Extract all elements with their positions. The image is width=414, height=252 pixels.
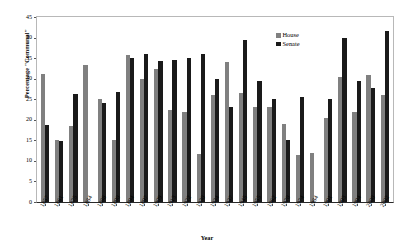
y-tick-label: 45 xyxy=(26,13,32,21)
bar-group xyxy=(80,17,94,202)
bar-group xyxy=(378,17,392,202)
bar-group xyxy=(66,17,80,202)
y-tick-label: 15 xyxy=(26,136,32,144)
legend-item-house: House xyxy=(276,31,300,40)
bar-senate-1934 xyxy=(215,79,219,202)
x-axis-ticks: 1857186118751884188818901894189719091913… xyxy=(37,204,393,234)
bar-senate-1955 xyxy=(257,81,261,202)
y-tick-label: 40 xyxy=(26,33,32,41)
x-tick-1897: 1897 xyxy=(137,204,151,234)
x-tick-1922: 1922 xyxy=(180,204,194,234)
bar-group xyxy=(321,17,335,202)
bar-group xyxy=(180,17,194,202)
x-tick-1945: 1945 xyxy=(236,204,250,234)
bar-group xyxy=(151,17,165,202)
bar-senate-1890 xyxy=(116,92,120,202)
y-tick-label: 10 xyxy=(26,156,32,164)
bar-senate-1875 xyxy=(73,94,77,202)
x-tick-1934: 1934 xyxy=(208,204,222,234)
x-tick-1984: 1984 xyxy=(307,204,321,234)
legend-label: Senate xyxy=(283,40,300,49)
x-tick-1913: 1913 xyxy=(165,204,179,234)
bar-group xyxy=(165,17,179,202)
bar-group xyxy=(95,17,109,202)
legend-item-senate: Senate xyxy=(276,40,300,49)
bar-group xyxy=(123,17,137,202)
x-tick-1993: 1993 xyxy=(335,204,349,234)
x-axis-title: Year xyxy=(0,234,414,241)
bar-group xyxy=(52,17,66,202)
x-tick-1888: 1888 xyxy=(95,204,109,234)
bar-senate-1897 xyxy=(144,54,148,202)
y-tick-label: 20 xyxy=(26,115,32,123)
x-tick-2002: 2002 xyxy=(378,204,392,234)
x-tick-1962: 1962 xyxy=(265,204,279,234)
y-axis-ticks: 051015202530354045 xyxy=(0,16,36,203)
x-tick-1894: 1894 xyxy=(123,204,137,234)
bar-senate-1970 xyxy=(286,140,290,202)
bar-senate-1994 xyxy=(357,81,361,202)
bar-senate-1888 xyxy=(102,103,106,202)
bar-group xyxy=(38,17,52,202)
bar-senate-1857 xyxy=(45,125,49,202)
x-tick-1937: 1937 xyxy=(222,204,236,234)
x-tick-1890: 1890 xyxy=(109,204,123,234)
legend-swatch-icon xyxy=(276,42,281,47)
y-tick-label: 30 xyxy=(26,74,32,82)
bar-series-container xyxy=(37,17,393,202)
bar-senate-1861 xyxy=(59,141,63,202)
y-tick-label: 35 xyxy=(26,54,32,62)
x-tick-1991: 1991 xyxy=(321,204,335,234)
bar-group xyxy=(137,17,151,202)
bar-chart: Percentage "Communal" 051015202530354045… xyxy=(0,0,414,252)
bar-senate-1922 xyxy=(187,58,191,202)
y-tick-label: 5 xyxy=(29,177,32,185)
x-tick-1955: 1955 xyxy=(250,204,264,234)
bar-senate-1974 xyxy=(300,97,304,202)
bar-group xyxy=(349,17,363,202)
legend-label: House xyxy=(283,31,299,40)
bar-group xyxy=(208,17,222,202)
bar-group xyxy=(364,17,378,202)
legend-swatch-icon xyxy=(276,33,281,38)
x-tick-1884: 1884 xyxy=(80,204,94,234)
x-tick-2000: 2000 xyxy=(364,204,378,234)
y-tick-label: 0 xyxy=(29,198,32,206)
x-tick-1857: 1857 xyxy=(38,204,52,234)
bar-group xyxy=(250,17,264,202)
bar-senate-1930 xyxy=(201,54,205,202)
bar-senate-1962 xyxy=(272,99,276,202)
x-tick-1861: 1861 xyxy=(52,204,66,234)
x-tick-1930: 1930 xyxy=(194,204,208,234)
x-tick-1974: 1974 xyxy=(293,204,307,234)
x-tick-1970: 1970 xyxy=(279,204,293,234)
x-tick-1994: 1994 xyxy=(349,204,363,234)
bar-senate-1993 xyxy=(342,38,346,202)
bar-group xyxy=(236,17,250,202)
bar-senate-1937 xyxy=(229,107,233,202)
bar-group xyxy=(222,17,236,202)
bar-senate-1894 xyxy=(130,58,134,202)
bar-group xyxy=(307,17,321,202)
bar-group xyxy=(109,17,123,202)
bar-house-1884 xyxy=(83,65,87,202)
chart-legend: HouseSenate xyxy=(276,31,300,48)
bar-senate-1909 xyxy=(158,61,162,202)
y-tick-label: 25 xyxy=(26,95,32,103)
x-tick-1909: 1909 xyxy=(151,204,165,234)
bar-senate-1945 xyxy=(243,40,247,202)
bar-group xyxy=(194,17,208,202)
x-tick-1875: 1875 xyxy=(66,204,80,234)
bar-senate-1991 xyxy=(328,99,332,202)
bar-senate-2000 xyxy=(371,88,375,202)
bar-senate-1913 xyxy=(172,60,176,202)
bar-group xyxy=(335,17,349,202)
bar-senate-2002 xyxy=(385,31,389,202)
